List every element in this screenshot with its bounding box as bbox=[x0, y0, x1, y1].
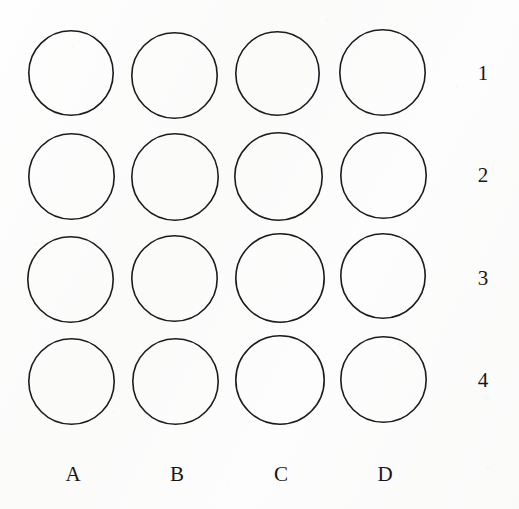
grid-circle-d4[interactable] bbox=[338, 334, 429, 425]
column-label-A: A bbox=[58, 464, 88, 485]
grid-circle-d2[interactable] bbox=[338, 130, 429, 221]
circle-outline bbox=[339, 29, 424, 114]
circle-outline bbox=[29, 31, 113, 115]
circle-outline bbox=[27, 236, 112, 321]
row-label-4: 4 bbox=[470, 370, 496, 391]
grid-circle-b4[interactable] bbox=[130, 336, 221, 427]
grid-circle-d3[interactable] bbox=[338, 231, 428, 321]
circle-outline bbox=[236, 234, 324, 322]
circle-outline bbox=[132, 338, 217, 423]
grid-circle-d1[interactable] bbox=[337, 27, 428, 118]
grid-circle-c1[interactable] bbox=[233, 29, 322, 118]
grid-circle-a4[interactable] bbox=[26, 336, 117, 427]
circle-outline bbox=[28, 133, 113, 218]
circle-outline bbox=[236, 336, 324, 424]
circle-outline bbox=[341, 234, 425, 318]
circle-outline bbox=[234, 132, 321, 219]
row-label-3: 3 bbox=[470, 268, 496, 289]
column-label-D: D bbox=[370, 464, 400, 485]
circle-outline bbox=[340, 132, 425, 217]
row-label-1: 1 bbox=[470, 63, 496, 84]
circle-outline bbox=[131, 32, 216, 117]
grid-circle-b1[interactable] bbox=[129, 30, 220, 121]
circle-outline bbox=[132, 134, 218, 220]
circle-outline bbox=[28, 338, 113, 423]
row-label-2: 2 bbox=[470, 165, 496, 186]
grid-circle-c2[interactable] bbox=[232, 130, 325, 223]
circle-outline bbox=[131, 235, 216, 320]
column-label-C: C bbox=[266, 464, 296, 485]
column-label-B: B bbox=[162, 464, 192, 485]
grid-circle-b2[interactable] bbox=[129, 131, 221, 223]
circle-grid-figure: 1234ABCD bbox=[0, 0, 519, 509]
grid-circle-c4[interactable] bbox=[233, 333, 327, 427]
grid-circle-a1[interactable] bbox=[26, 28, 116, 118]
grid-circle-b3[interactable] bbox=[129, 233, 220, 324]
circle-outline bbox=[235, 31, 318, 114]
circle-outline bbox=[340, 336, 425, 421]
grid-circle-c3[interactable] bbox=[233, 231, 327, 325]
grid-circle-a2[interactable] bbox=[26, 131, 117, 222]
grid-circle-a3[interactable] bbox=[25, 234, 116, 325]
